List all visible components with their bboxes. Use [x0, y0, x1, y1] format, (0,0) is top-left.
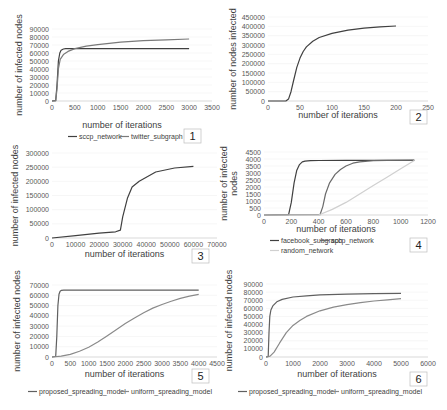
x-tick-label: 3500: [173, 360, 189, 367]
y-tick-label: 10000: [244, 345, 264, 352]
y-axis-label: number of infected nodes: [12, 270, 22, 372]
x-tick-label: 3500: [204, 104, 220, 111]
y-tick-label: 0: [259, 354, 263, 361]
y-tick-label: 4000: [245, 156, 261, 163]
series-line-random-network: [264, 160, 414, 215]
chart-panel-3: 0500001000001500002000002500003000000100…: [10, 144, 227, 263]
panel-number: 1: [189, 130, 195, 142]
y-tick-label: 50000: [244, 313, 264, 320]
y-tick-label: 10000: [30, 343, 50, 350]
y-tick-label: 50000: [30, 220, 50, 227]
y-tick-label: 60000: [244, 305, 264, 312]
x-tick-label: 0: [264, 360, 268, 367]
y-tick-label: 350000: [242, 32, 265, 39]
legend-label: sccp_network: [331, 237, 374, 245]
y-tick-label: 1000: [245, 198, 261, 205]
x-tick-label: 2000: [136, 104, 152, 111]
x-tick-label: 1500: [113, 104, 129, 111]
y-tick-label: 0: [257, 212, 261, 219]
x-tick-label: 4000: [366, 360, 382, 367]
legend-label: sccp_network: [79, 133, 122, 141]
y-tick-label: 80000: [30, 34, 50, 41]
y-tick-label: 4500: [245, 149, 261, 156]
y-tick-label: 20000: [30, 82, 50, 89]
y-axis-label: number of infected nodes: [14, 14, 24, 116]
y-axis-label: number of infected nodes: [224, 269, 234, 371]
chart-panel-5: 0100002000030000400005000060000700000500…: [12, 270, 225, 396]
x-tick-label: 0: [50, 360, 54, 367]
x-axis-label: number of iterations: [296, 224, 376, 234]
y-tick-label: 90000: [30, 26, 50, 33]
y-tick-label: 40000: [244, 321, 264, 328]
x-tick-label: 2500: [136, 360, 152, 367]
x-axis-label: number of iterations: [85, 369, 165, 379]
y-tick-label: 30000: [244, 329, 264, 336]
chart-figure: 0100002000030000400005000060000700008000…: [0, 0, 447, 410]
y-tick-label: 100000: [242, 79, 265, 86]
x-tick-label: 0: [50, 104, 54, 111]
x-tick-label: 4500: [209, 360, 225, 367]
y-tick-label: 200000: [242, 60, 265, 67]
x-tick-label: 1500: [99, 360, 115, 367]
x-tick-label: 6000: [420, 360, 436, 367]
y-tick-label: 200000: [26, 178, 49, 185]
x-tick-label: 1200: [420, 218, 436, 225]
y-tick-label: 250000: [242, 51, 265, 58]
y-tick-label: 500: [249, 205, 261, 212]
y-tick-label: 300000: [26, 150, 49, 157]
x-axis-label: number of iterations: [298, 110, 378, 120]
y-tick-label: 2000: [245, 184, 261, 191]
x-tick-label: 30000: [113, 241, 133, 248]
x-tick-label: 70000: [207, 241, 227, 248]
series-line-facebook-subgraph: [264, 160, 414, 215]
y-tick-label: 2500: [245, 177, 261, 184]
y-tick-label: 300000: [242, 42, 265, 49]
y-tick-label: 400000: [242, 23, 265, 30]
x-tick-label: 3000: [181, 104, 197, 111]
y-axis-label: number of infectednodes: [219, 146, 239, 221]
y-tick-label: 1500: [245, 191, 261, 198]
x-tick-label: 2000: [312, 360, 328, 367]
x-tick-label: 2500: [158, 104, 174, 111]
x-tick-label: 0: [262, 218, 266, 225]
chart-panel-2: 0500001000001500002000002500003000003500…: [228, 8, 434, 124]
legend-label: proposed_spreading_model: [39, 388, 126, 396]
y-axis-label: number of infected nodes: [10, 144, 20, 246]
x-tick-label: 3000: [339, 360, 355, 367]
x-axis-label: number of iterations: [297, 369, 377, 379]
x-tick-label: 20000: [89, 241, 109, 248]
x-axis-label: number of iterations: [85, 249, 165, 259]
legend-label: uniform_spreading_model: [131, 388, 212, 396]
x-tick-label: 1000: [393, 218, 409, 225]
y-tick-label: 30000: [30, 74, 50, 81]
legend-label: proposed_spreading_model: [249, 388, 336, 396]
y-tick-label: 70000: [30, 282, 50, 289]
legend-label: random_network: [281, 247, 334, 255]
y-tick-label: 3500: [245, 163, 261, 170]
y-tick-label: 50000: [30, 58, 50, 65]
x-tick-label: 0: [266, 104, 270, 111]
x-axis-label: number of iterations: [82, 120, 162, 130]
y-tick-label: 50000: [30, 302, 50, 309]
series-line-series: [52, 166, 193, 238]
x-tick-label: 200: [390, 104, 402, 111]
y-tick-label: 100000: [26, 206, 49, 213]
chart-panel-4: 0500100015002000250030003500400045000200…: [219, 146, 436, 255]
series-line-uniform-spreading-model: [266, 299, 401, 357]
y-tick-label: 30000: [30, 323, 50, 330]
y-tick-label: 0: [45, 98, 49, 105]
series-line-sccp-network: [264, 160, 414, 215]
chart-panel-6: 0100002000030000400005000060000700008000…: [224, 269, 436, 396]
y-tick-label: 20000: [244, 337, 264, 344]
panel-number: 4: [415, 239, 421, 251]
x-tick-label: 5000: [393, 360, 409, 367]
y-tick-label: 70000: [30, 42, 50, 49]
y-tick-label: 40000: [30, 312, 50, 319]
y-tick-label: 80000: [244, 289, 264, 296]
x-tick-label: 500: [69, 104, 81, 111]
x-tick-label: 10000: [66, 241, 86, 248]
y-tick-label: 450000: [242, 14, 265, 21]
y-tick-label: 90000: [244, 281, 264, 288]
y-tick-label: 0: [45, 354, 49, 361]
y-tick-label: 150000: [242, 70, 265, 77]
